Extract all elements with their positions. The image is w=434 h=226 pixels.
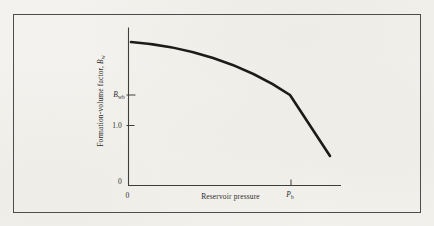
y-axis-label-text: Formation-volume factor, (96, 64, 105, 147)
scanned-figure-page: Formation-volume factor, Bw Bwb 1.0 0 0 … (0, 0, 434, 226)
x-axis-label: Reservoir pressure (160, 192, 301, 201)
y-axis-symbol: B (96, 59, 105, 64)
y-tick-label-0: 0 (95, 177, 122, 186)
y-tick-label-bwb: Bwb (85, 90, 125, 101)
y-axis-label: Formation-volume factor, Bw (96, 26, 108, 176)
bwb-subscript: wb (118, 94, 125, 100)
y-tick-label-1-0: 1.0 (85, 121, 122, 130)
bw-pressure-curve (131, 42, 330, 156)
x-tick-label-0: 0 (115, 191, 140, 200)
y-axis-symbol-subscript: w (100, 55, 106, 59)
